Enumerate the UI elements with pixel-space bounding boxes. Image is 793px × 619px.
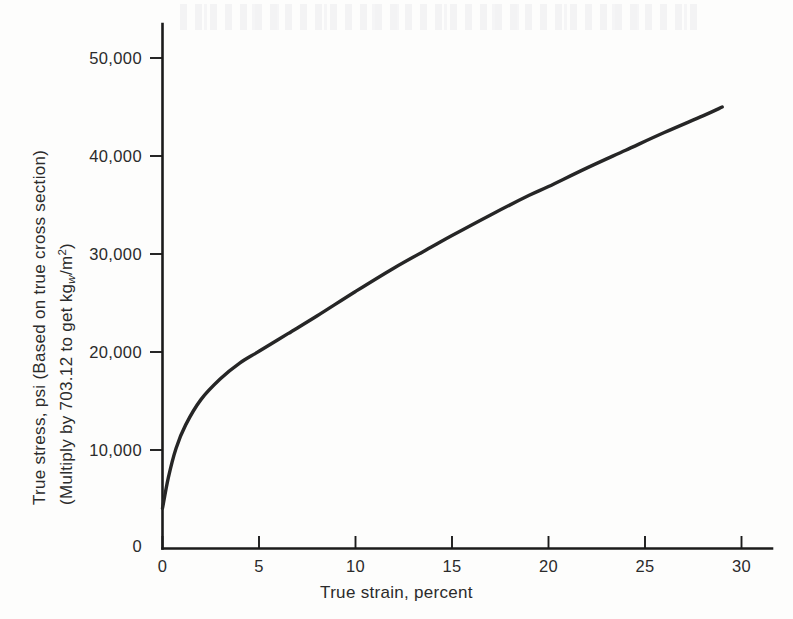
y-tick-label: 10,000 [89, 441, 142, 459]
x-tick-label: 20 [539, 557, 558, 575]
stress-strain-curve [163, 107, 723, 508]
x-axis-tick-labels: 0 5 10 15 20 25 30 [158, 557, 751, 575]
x-tick-label: 10 [346, 557, 365, 575]
y-tick-label: 20,000 [89, 343, 142, 361]
y-axis-tick-labels: 10,000 20,000 30,000 40,000 50,000 0 [89, 49, 142, 555]
x-tick-label: 5 [254, 557, 264, 575]
y-tick-label: 50,000 [89, 49, 142, 67]
x-axis-title: True strain, percent [0, 583, 793, 603]
x-tick-label: 0 [158, 557, 168, 575]
stress-strain-plot: 10,000 20,000 30,000 40,000 50,000 0 0 5… [0, 0, 793, 619]
y-tick-label: 40,000 [89, 147, 142, 165]
x-tick-label: 25 [635, 557, 654, 575]
y-tick-label: 30,000 [89, 245, 142, 263]
y-axis-ticks [150, 58, 163, 450]
x-axis-ticks [163, 536, 742, 549]
figure-canvas: 10,000 20,000 30,000 40,000 50,000 0 0 5… [0, 0, 793, 619]
x-tick-label: 30 [732, 557, 751, 575]
x-tick-label: 15 [442, 557, 461, 575]
y-origin-label: 0 [132, 537, 142, 555]
